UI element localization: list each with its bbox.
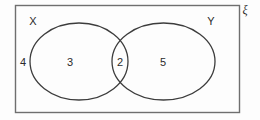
- region-count-y-only: 5: [160, 56, 166, 68]
- set-label-y: Y: [207, 15, 215, 27]
- region-count-outside: 4: [20, 56, 26, 68]
- universal-set-symbol: ξ: [242, 3, 248, 17]
- region-count-x-only: 3: [67, 56, 73, 68]
- venn-diagram-figure: ξ X Y 4 3 2 5: [0, 0, 260, 120]
- set-label-x: X: [29, 15, 37, 27]
- set-x-ellipse: [30, 23, 128, 100]
- venn-diagram-canvas: ξ X Y 4 3 2 5: [0, 0, 260, 120]
- region-count-intersection: 2: [117, 56, 123, 68]
